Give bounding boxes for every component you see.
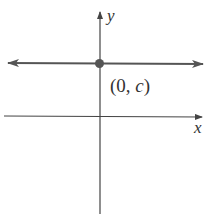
point-label: (0, c) (110, 75, 150, 97)
diagram-canvas: y x (0, c) (0, 0, 207, 214)
graph-svg: y x (0, c) (0, 0, 207, 214)
point-label-open: (0, (110, 75, 135, 97)
x-axis-label: x (193, 118, 202, 137)
horizontal-line (8, 63, 203, 64)
x-axis (4, 116, 202, 117)
y-axis-label: y (105, 6, 115, 25)
point-label-close: ) (144, 75, 150, 97)
intercept-point (95, 59, 104, 68)
